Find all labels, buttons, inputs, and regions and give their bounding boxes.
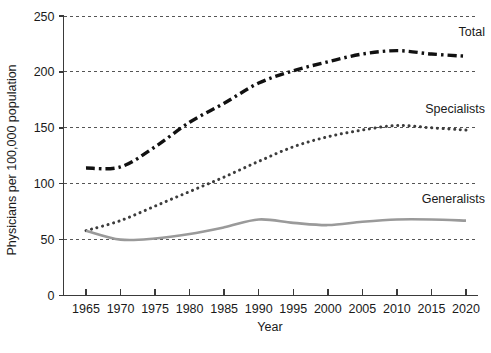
y-tick-label-200: 200 bbox=[34, 65, 55, 79]
x-axis-title: Year bbox=[257, 320, 282, 334]
y-tick-labels: 050100150200250 bbox=[34, 10, 55, 304]
x-tick-label-2000: 2000 bbox=[314, 302, 342, 316]
x-tick-label-2015: 2015 bbox=[418, 302, 446, 316]
series-line-total bbox=[86, 51, 466, 169]
x-tick-label-1995: 1995 bbox=[279, 302, 307, 316]
y-tick-label-150: 150 bbox=[34, 121, 55, 135]
y-tick-label-100: 100 bbox=[34, 177, 55, 191]
x-tick-label-2005: 2005 bbox=[348, 302, 376, 316]
series-label-specialists: Specialists bbox=[425, 102, 485, 116]
gridlines bbox=[64, 16, 479, 240]
x-tick-marks bbox=[86, 289, 466, 296]
series-label-total: Total bbox=[459, 25, 485, 39]
x-tick-label-2010: 2010 bbox=[383, 302, 411, 316]
data-series bbox=[86, 51, 466, 240]
series-line-generalists bbox=[86, 219, 466, 240]
x-tick-label-2020: 2020 bbox=[452, 302, 480, 316]
x-tick-label-1965: 1965 bbox=[72, 302, 100, 316]
series-line-specialists bbox=[86, 126, 466, 231]
series-label-generalists: Generalists bbox=[422, 192, 485, 206]
x-tick-label-1975: 1975 bbox=[141, 302, 169, 316]
chart-svg: 050100150200250 196519701975198019851990… bbox=[0, 0, 491, 353]
y-axis-title: Physicians per 100,000 population bbox=[5, 64, 19, 255]
x-tick-label-1990: 1990 bbox=[245, 302, 273, 316]
y-tick-label-50: 50 bbox=[41, 233, 55, 247]
x-tick-label-1980: 1980 bbox=[176, 302, 204, 316]
y-tick-label-250: 250 bbox=[34, 10, 55, 24]
x-tick-label-1970: 1970 bbox=[107, 302, 135, 316]
x-tick-label-1985: 1985 bbox=[210, 302, 238, 316]
physicians-per-population-chart: 050100150200250 196519701975198019851990… bbox=[0, 0, 491, 353]
y-tick-label-0: 0 bbox=[48, 289, 55, 303]
series-annotations: TotalSpecialistsGeneralists bbox=[422, 25, 485, 206]
x-tick-labels: 1965197019751980198519901995200020052010… bbox=[72, 302, 480, 316]
